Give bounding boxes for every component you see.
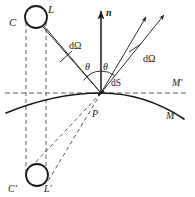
label-M: M [165,110,175,121]
label-theta-reflected: θ [103,61,108,72]
label-C-prime: C' [8,183,18,194]
label-P: P [91,108,98,119]
label-theta-incident: θ [85,61,90,72]
label-domega-out: dΩ [143,53,155,64]
outgoing-ray-1 [101,17,146,93]
label-L-prime: L' [43,183,53,194]
optics-diagram-svg: C L n dΩ dΩ θ θ dS P M' M C' L' [0,0,195,197]
label-M-prime: M' [171,77,183,88]
label-dS: dS [111,78,121,88]
figure-canvas: C L n dΩ dΩ θ θ dS P M' M C' L' [0,0,195,197]
angle-arcs [84,71,115,81]
label-normal-n: n [106,7,112,18]
mirror-ray-lower-2 [48,93,101,181]
incoming-ray-lower [44,26,101,93]
label-C: C [9,16,17,28]
source-sphere-L [25,6,47,28]
label-L: L [47,3,54,15]
label-domega-in: dΩ [69,40,81,51]
construction-dashed-lines [5,22,188,181]
mirror-ray-lower-1 [33,93,101,165]
